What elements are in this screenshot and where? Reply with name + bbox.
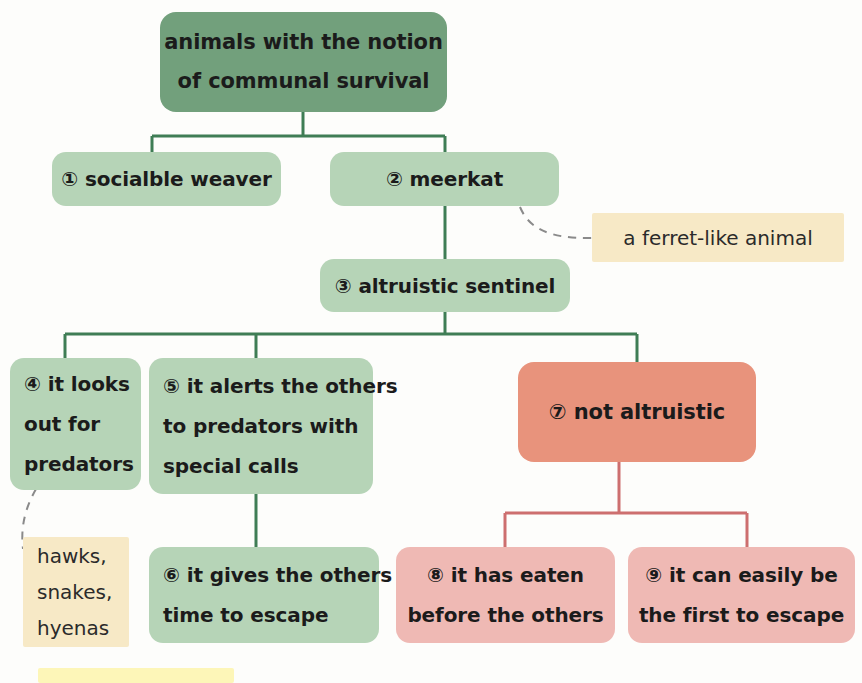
- node-alerts-others-line-1: ⑤ it alerts the others: [163, 366, 397, 406]
- note-predator-examples-line-2: snakes,: [37, 574, 112, 610]
- node-alerts-others[interactable]: ⑤ it alerts the others to predators with…: [149, 358, 373, 494]
- highlight-strip-bottom: [38, 668, 234, 683]
- node-looks-out-for-predators[interactable]: ④ it looks out for predators: [10, 358, 141, 490]
- note-predator-examples-line-3: hyenas: [37, 610, 109, 646]
- node-altruistic-sentinel[interactable]: ③ altruistic sentinel: [320, 259, 570, 312]
- node-gives-time-to-escape-line-2: time to escape: [163, 595, 328, 635]
- edge-n2-note-ferret: [520, 207, 592, 238]
- node-alerts-others-line-2: to predators with: [163, 406, 358, 446]
- node-has-eaten-before-others-line-1: ⑧ it has eaten: [427, 555, 584, 595]
- node-root-line-2: of communal survival: [178, 62, 430, 101]
- note-ferret-like-animal: a ferret-like animal: [592, 213, 844, 262]
- node-first-to-escape[interactable]: ⑨ it can easily be the first to escape: [628, 547, 855, 643]
- note-predator-examples-line-1: hawks,: [37, 538, 107, 574]
- note-ferret-like-animal-line-1: a ferret-like animal: [623, 220, 812, 256]
- node-meerkat-label: ② meerkat: [386, 159, 503, 199]
- node-first-to-escape-line-1: ⑨ it can easily be: [645, 555, 838, 595]
- diagram-canvas: animals with the notion of communal surv…: [0, 0, 862, 683]
- node-looks-out-for-predators-line-3: predators: [24, 444, 134, 484]
- node-not-altruistic-label: ⑦ not altruistic: [549, 392, 725, 432]
- note-predator-examples: hawks, snakes, hyenas: [23, 537, 129, 647]
- node-looks-out-for-predators-line-1: ④ it looks: [24, 364, 130, 404]
- node-has-eaten-before-others[interactable]: ⑧ it has eaten before the others: [396, 547, 615, 643]
- node-root-line-1: animals with the notion: [164, 23, 443, 62]
- node-gives-time-to-escape-line-1: ⑥ it gives the others: [163, 555, 392, 595]
- node-gives-time-to-escape[interactable]: ⑥ it gives the others time to escape: [149, 547, 379, 643]
- node-sociable-weaver[interactable]: ① socialble weaver: [52, 152, 281, 206]
- node-alerts-others-line-3: special calls: [163, 446, 298, 486]
- node-sociable-weaver-label: ① socialble weaver: [61, 159, 272, 199]
- node-not-altruistic[interactable]: ⑦ not altruistic: [518, 362, 756, 462]
- node-has-eaten-before-others-line-2: before the others: [407, 595, 603, 635]
- node-root[interactable]: animals with the notion of communal surv…: [160, 12, 447, 112]
- node-meerkat[interactable]: ② meerkat: [330, 152, 559, 206]
- node-looks-out-for-predators-line-2: out for: [24, 404, 100, 444]
- node-first-to-escape-line-2: the first to escape: [639, 595, 844, 635]
- node-altruistic-sentinel-label: ③ altruistic sentinel: [335, 266, 556, 306]
